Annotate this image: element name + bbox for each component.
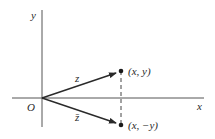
point-z-conjugate: [119, 123, 124, 128]
point-z-label: (x, y): [128, 65, 151, 78]
point-z-conjugate-label: (x, −y): [128, 119, 158, 132]
point-z: [119, 69, 124, 74]
origin-label: O: [27, 101, 35, 113]
y-axis-label: y: [30, 9, 36, 21]
axes: [12, 10, 204, 127]
vector-z-label: z: [74, 72, 80, 84]
x-axis-label: x: [196, 100, 202, 112]
vector-z-conjugate-label: z̄: [74, 111, 80, 123]
conjugate-diagram: y x O z z̄ (x, y) (x, −y): [0, 0, 215, 139]
